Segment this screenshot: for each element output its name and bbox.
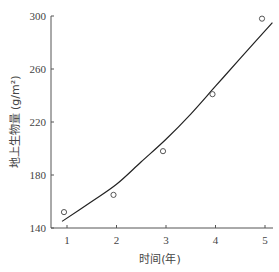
y-ticks: 140180220260300 (30, 10, 55, 234)
data-point-marker (160, 149, 165, 154)
chart: 140180220260300 12345 时间(年) 地上生物量 (g/m²) (0, 0, 279, 272)
y-tick-label: 300 (30, 10, 47, 22)
x-axis-label: 时间(年) (139, 252, 181, 266)
x-tick-label: 4 (213, 234, 219, 246)
fitted-curve (62, 23, 272, 222)
data-points (61, 16, 264, 215)
y-tick-label: 220 (30, 116, 47, 128)
x-tick-label: 5 (262, 234, 268, 246)
y-tick-label: 260 (30, 63, 47, 75)
data-point-marker (111, 192, 116, 197)
data-point-marker (259, 16, 264, 21)
y-tick-label: 140 (30, 222, 47, 234)
y-tick-label: 180 (30, 169, 47, 181)
data-point-marker (210, 92, 215, 97)
x-tick-label: 3 (163, 234, 169, 246)
data-point-marker (61, 210, 66, 215)
x-tick-label: 1 (64, 234, 70, 246)
x-tick-label: 2 (114, 234, 120, 246)
y-axis-label: 地上生物量 (g/m²) (8, 76, 22, 169)
